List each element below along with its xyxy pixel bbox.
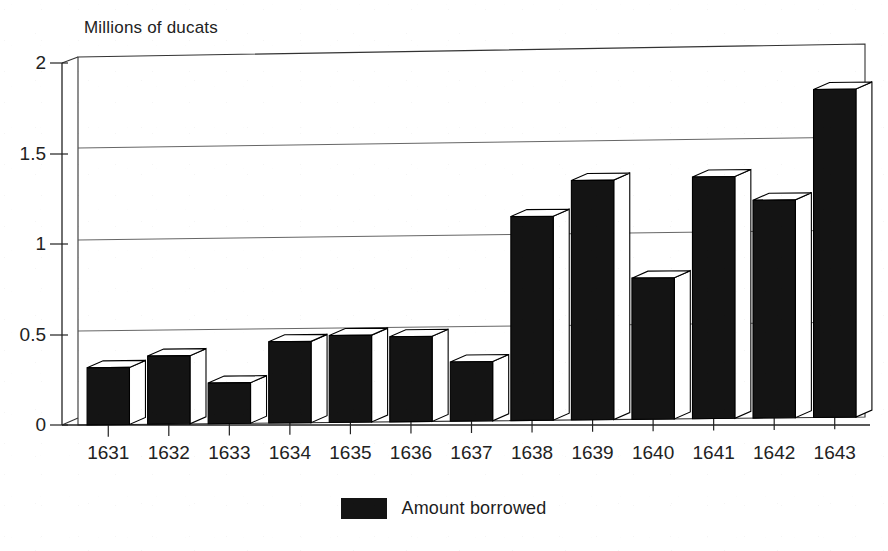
bar: [571, 173, 629, 420]
bar-side-face: [129, 360, 145, 424]
bar: [208, 376, 266, 424]
legend-label-amount-borrowed: Amount borrowed: [401, 498, 546, 519]
x-tick-label: 1636: [390, 442, 432, 464]
x-tick-label: 1640: [632, 442, 674, 464]
bar: [692, 169, 750, 418]
x-tick-label: 1631: [87, 442, 129, 464]
bar-front-face: [753, 200, 795, 418]
bar: [329, 328, 387, 422]
bar-side-face: [614, 173, 630, 419]
bar-front-face: [692, 176, 734, 418]
bar: [450, 355, 508, 422]
y-axis-ticks: [50, 63, 68, 425]
bar: [87, 360, 145, 425]
bar-front-face: [148, 356, 190, 425]
x-tick-label: 1635: [329, 442, 371, 464]
bar: [148, 349, 206, 425]
bar-front-face: [632, 278, 674, 420]
bar-side-face: [856, 82, 872, 417]
x-tick-label: 1637: [450, 442, 492, 464]
bar: [269, 334, 327, 423]
bar-front-face: [571, 180, 613, 420]
bar: [814, 82, 872, 418]
bar-front-face: [87, 367, 129, 425]
bar-front-face: [390, 336, 432, 422]
bar-side-face: [251, 376, 267, 424]
bar: [390, 329, 448, 422]
chart-legend: Amount borrowed: [0, 498, 888, 519]
bar-front-face: [269, 341, 311, 423]
x-tick-label: 1641: [693, 442, 735, 464]
plot-area: [0, 0, 888, 551]
x-tick-label: 1639: [571, 442, 613, 464]
x-tick-label: 1643: [814, 442, 856, 464]
bar: [753, 193, 811, 418]
bar: [511, 209, 569, 420]
x-tick-label: 1634: [269, 442, 311, 464]
bar-side-face: [553, 209, 569, 420]
bar-front-face: [814, 89, 856, 418]
x-tick-label: 1638: [511, 442, 553, 464]
bar-series-amount-borrowed: [87, 82, 872, 425]
bar-side-face: [372, 328, 388, 422]
x-tick-label: 1633: [208, 442, 250, 464]
bar-front-face: [329, 335, 371, 422]
bar: [632, 271, 690, 420]
bar-chart: Millions of ducats 2 1.5 1 0.5 0: [0, 0, 888, 551]
bar-side-face: [795, 193, 811, 418]
legend-swatch-amount-borrowed: [341, 498, 387, 519]
x-tick-label: 1642: [753, 442, 795, 464]
bar-side-face: [735, 169, 751, 418]
bar-side-face: [311, 334, 327, 422]
x-tick-label: 1632: [148, 442, 190, 464]
bar-side-face: [674, 271, 690, 419]
bar-side-face: [432, 329, 448, 421]
bar-front-face: [208, 383, 250, 424]
bar-side-face: [493, 355, 509, 421]
bar-side-face: [190, 349, 206, 424]
bar-front-face: [450, 362, 492, 422]
bar-front-face: [511, 216, 553, 420]
